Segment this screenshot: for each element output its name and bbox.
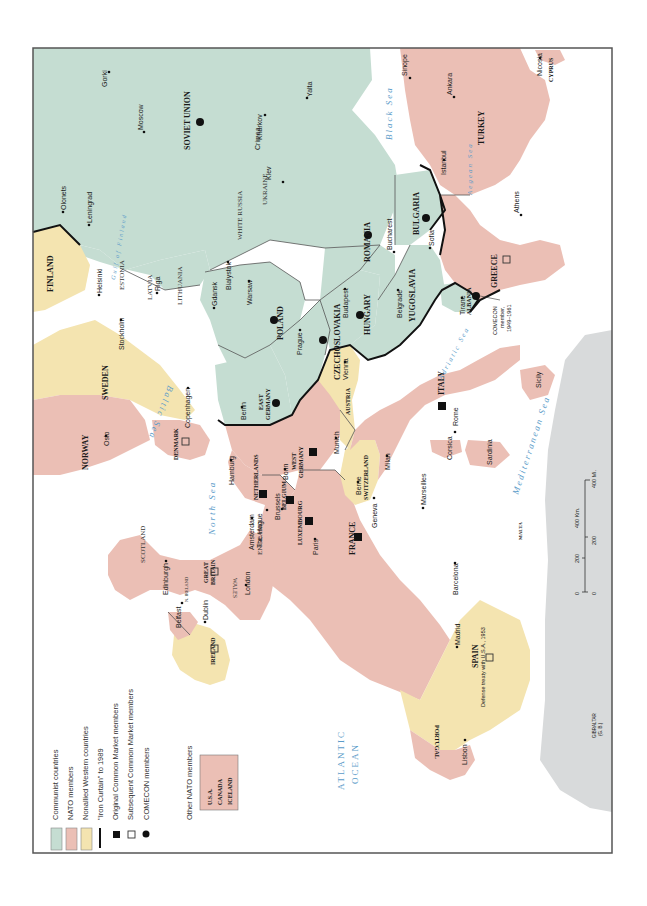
city-bucharest: Bucharest [386,218,393,250]
label-denmark: DENMARK [173,428,179,460]
scale-mi-200: 200 [591,536,597,545]
label-greece: GREECE [490,254,499,288]
city-munich: Munich [333,431,340,454]
city-belgrade: Belgrade [396,290,404,318]
label-poland: POLAND [276,306,285,340]
scale-km-0: 0 [574,592,580,595]
label-romania: ROMANIA [363,222,372,262]
scale-mi-400: 400 Mi. [591,469,597,488]
label-white-russia: WHITE RUSSIA [236,191,244,240]
ocm-square-luxembourg [305,517,313,525]
legend-swatch-nato [66,828,77,850]
legend-swatch-communist [51,828,62,850]
legend-label-nato: NATO members [66,766,75,820]
label-sweden: SWEDEN [101,365,110,400]
ocm-square-belgium [286,496,294,504]
city-helsinki: Helsinki [96,268,103,293]
city-oslo: Oslo [103,432,110,447]
spain-note: Defense treaty with U.S.A., 1953 [480,627,486,707]
map-figure: SOVIET UNION FINLAND SWEDEN NORWAY DENMA… [0,0,647,906]
comecon-dot-soviet-union [196,118,204,126]
label-corsica: Corsica [446,436,453,460]
city-madrid: Madrid [454,623,461,645]
label-wales: WALES [232,578,238,598]
legend-filled-circle [143,831,150,838]
label-finland: FINLAND [46,255,55,292]
city-athens: Athens [513,191,520,213]
city-lisbon: Lisbon [461,744,468,765]
city-hamburg: Hamburg [228,456,236,485]
city-gorki: Gorki [101,70,108,87]
legend-label-communist: Communist countries [51,749,60,820]
label-malta: MALTA [518,522,523,540]
label-scotland: SCOTLAND [139,526,147,563]
label-netherlands: NETHERLANDS [253,454,259,500]
city-gdansk: Gdansk [211,281,218,306]
sea-aegean: Aegean Sea [466,142,474,196]
label-albania: ALBANIA [466,287,472,315]
label-sardinia: Sardinia [486,439,493,465]
city-moscow: Moscow [137,103,144,130]
legend-label-subsequent-cm: Subsequent Common Market members [126,689,135,820]
label-n-ireland: N. IRELAND [184,576,189,602]
legend-other-nato-title: Other NATO members [185,745,194,820]
label-bulgaria: BULGARIA [412,192,421,235]
city-marseilles: Marseilles [420,473,427,505]
legend-other-nato-canada: CANADA [217,778,223,805]
soviet-union-land [33,48,400,270]
city-olonets: Olonets [60,185,67,210]
label-ireland: IRELAND [210,637,216,665]
comecon-dot-east-germany [272,399,280,407]
label-latvia: LATVIA [146,275,154,300]
city-sofia: Sofia [428,230,435,246]
city-nicosia: Nicosia [536,53,543,76]
scale-mi-0: 0 [591,592,597,595]
legend-label-comecon: COMECON members [142,747,151,820]
label-czechoslovakia: CZECHOSLOVAKIA [333,303,342,380]
city-london: London [244,572,251,595]
label-germany-west: GERMANY [298,446,304,478]
scale-km-200: 200 [574,554,580,563]
label-turkey: TURKEY [477,111,486,145]
city-geneva: Geneva [371,503,378,528]
city-berne: Berne [355,476,362,495]
city-copenhagen: Copenhagen [184,388,192,428]
label-great: GREAT [203,562,209,583]
city-yalta: Yalta [306,81,313,97]
legend-label-nonallied: Nonallied Western countries [81,726,90,820]
label-norway: NORWAY [81,434,90,470]
label-belgium: BELGIUM [281,481,287,510]
ocm-square-west-germany [309,448,317,456]
scale-km-400: 400 Km. [574,507,580,528]
city-edinburgh: Edinburgh [162,563,170,595]
label-austria: AUSTRIA [345,387,351,415]
legend-swatch-nonallied [81,828,92,850]
label-switzerland: SWITZERLAND [363,454,369,500]
label-lithuania: LITHUANIA [176,267,184,306]
label-france: FRANCE [348,522,357,555]
city-barcelona: Barcelona [452,563,459,595]
city-stockholm: Stockholm [118,317,125,350]
label-germany-east: GERMANY [265,388,271,420]
label-cyprus: CYPRUS [548,57,554,82]
albania-note-3: 1949–1961 [506,304,512,332]
sea-black: Black Sea [384,86,394,140]
albania-note-1: COMECON [492,306,498,335]
city-brussels: Brussels [274,493,281,520]
label-hungary: HUNGARY [363,294,372,335]
city-istanbul: Istanbul [440,150,447,175]
label-soviet-union: SOVIET UNION [183,91,192,150]
city-warsaw: Warsaw [246,279,253,305]
label-sicily: Sicily [535,371,543,388]
city-rome: Rome [452,407,459,426]
city-bonn: Bonn [282,464,289,480]
city-ankara: Ankara [446,73,453,95]
label-gibraltar-note: (G. B.) [598,722,603,736]
label-gibraltar: GIBRALTAR [592,712,597,738]
label-east: EAST [258,394,264,410]
legend-other-nato-iceland: ICELAND [227,777,233,805]
sea-north: North Sea [207,481,217,536]
sea-atlantic-1: ATLANTIC [336,730,346,790]
city-kiev: Kiev [265,166,272,180]
label-west: WEST [291,453,297,470]
